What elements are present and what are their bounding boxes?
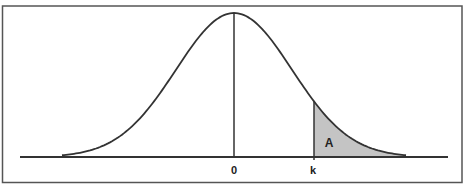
cutoff-label: k	[310, 164, 317, 176]
area-label: A	[325, 136, 334, 150]
mean-label: 0	[231, 164, 237, 176]
normal-curve-diagram: 0 k A	[0, 0, 474, 195]
